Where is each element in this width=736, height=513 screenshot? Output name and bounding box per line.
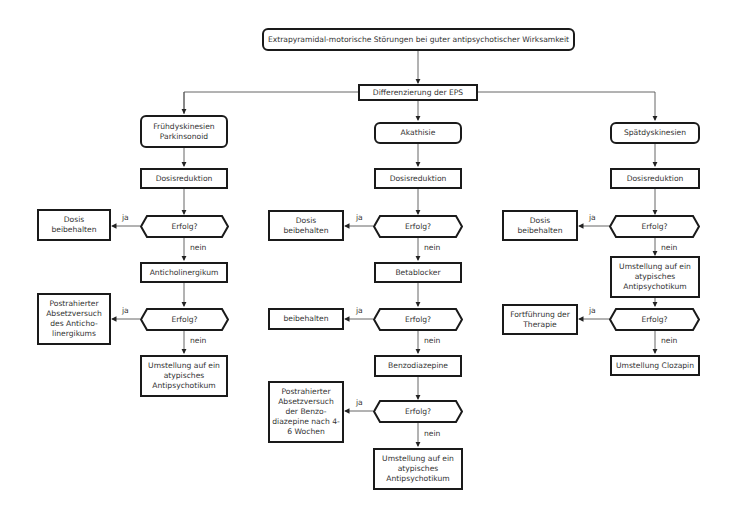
- decision-label: Erfolg?: [641, 315, 667, 324]
- decision-label: Erfolg?: [171, 315, 197, 324]
- middle-switch-atypical: Umstellung auf ein atypisches Antipsycho…: [373, 448, 463, 490]
- no-label: nein: [424, 243, 440, 252]
- middle-decision-3: Erfolg?: [373, 400, 463, 423]
- decision-label: Erfolg?: [405, 315, 431, 324]
- no-label: nein: [190, 336, 206, 345]
- root-node: Extrapyramidal-motorische Störungen bei …: [262, 28, 575, 51]
- yes-label: ja: [122, 213, 129, 222]
- akathisia-node: Akathisie: [374, 122, 462, 144]
- right-switch-clozapine: Umstellung Clozapin: [610, 355, 700, 376]
- yes-label: ja: [356, 306, 363, 315]
- left-keep-dose: Dosis beibehalten: [37, 209, 111, 241]
- middle-keep: beibehalten: [268, 308, 344, 330]
- right-decision-2: Erfolg?: [609, 308, 700, 331]
- middle-decision-1: Erfolg?: [373, 215, 463, 238]
- yes-label: ja: [589, 213, 596, 222]
- middle-taper-benzodiazepine: Postrahierter Absetzversuch der Benzo- d…: [268, 381, 344, 443]
- decision-label: Erfolg?: [405, 407, 431, 416]
- decision-label: Erfolg?: [171, 222, 197, 231]
- left-decision-1: Erfolg?: [140, 215, 229, 238]
- tardive-dyskinesia-node: Spätdyskinesien: [610, 122, 700, 144]
- middle-dose-reduction: Dosisreduktion: [374, 168, 462, 189]
- no-label: nein: [661, 336, 677, 345]
- decision-label: Erfolg?: [405, 222, 431, 231]
- yes-label: ja: [356, 398, 363, 407]
- middle-benzodiazepine: Benzodiazepine: [374, 355, 462, 377]
- right-keep-dose: Dosis beibehalten: [502, 210, 578, 241]
- differentiation-node: Differenzierung der EPS: [358, 84, 478, 101]
- decision-label: Erfolg?: [641, 222, 667, 231]
- early-dyskinesia-node: Frühdyskinesien Parkinsonoid: [140, 115, 228, 148]
- left-decision-2: Erfolg?: [140, 308, 229, 331]
- yes-label: ja: [122, 306, 129, 315]
- left-dose-reduction: Dosisreduktion: [140, 168, 228, 189]
- no-label: nein: [424, 429, 440, 438]
- middle-decision-2: Erfolg?: [373, 308, 463, 331]
- middle-betablocker: Betablocker: [374, 262, 462, 283]
- right-decision-1: Erfolg?: [609, 215, 700, 238]
- left-anticholinergic: Anticholinergikum: [140, 262, 228, 283]
- right-dose-reduction: Dosisreduktion: [610, 168, 700, 189]
- right-switch-atypical: Umstellung auf ein atypisches Antipsycho…: [610, 256, 700, 298]
- yes-label: ja: [589, 306, 596, 315]
- no-label: nein: [190, 243, 206, 252]
- yes-label: ja: [356, 213, 363, 222]
- no-label: nein: [424, 336, 440, 345]
- left-switch-atypical: Umstellung auf ein atypisches Antipsycho…: [140, 355, 228, 397]
- left-taper-anticholinergic: Postrahierter Absetzversuch des Anticho-…: [37, 293, 111, 345]
- right-continue-therapy: Fortführung der Therapie: [502, 304, 578, 335]
- middle-keep-dose: Dosis beibehalten: [268, 210, 344, 241]
- no-label: nein: [661, 243, 677, 252]
